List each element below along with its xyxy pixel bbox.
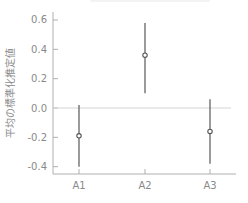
errorbar-a3 [208,99,212,164]
estimate-marker [143,53,147,57]
error-bars [77,23,212,167]
y-axis-label: 平均の標準化推定値 [4,48,16,138]
y-tick-label: 0.6 [31,14,47,25]
errorbar-a1 [77,105,81,167]
errorbar-a2 [143,23,147,93]
x-tick-label: A2 [138,180,151,191]
y-tick-label: -0.4 [27,161,47,172]
y-tick-label: 0.2 [31,73,47,84]
errorbar-chart: 0.60.40.20.0-0.2-0.4 A1A2A3 平均の標準化推定値 [0,0,248,203]
y-axis: 0.60.40.20.0-0.2-0.4 [27,12,58,174]
y-tick-label: 0.0 [31,103,47,114]
y-tick-label: 0.4 [31,44,47,55]
x-axis: A1A2A3 [53,169,236,191]
x-tick-label: A3 [203,180,216,191]
estimate-marker [77,134,81,138]
y-tick-label: -0.2 [27,132,47,143]
estimate-marker [208,129,212,133]
x-tick-label: A1 [72,180,85,191]
